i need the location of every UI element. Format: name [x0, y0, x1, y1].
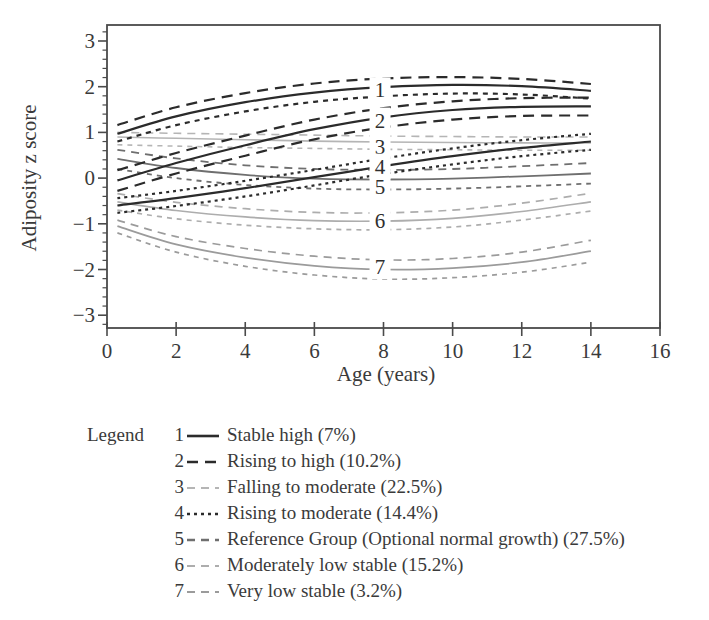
- y-tick-label: −1: [73, 212, 95, 236]
- series-4-center-line: [117, 142, 591, 206]
- legend-item-label: Rising to high (10.2%): [227, 450, 401, 472]
- legend-item-number: 2: [168, 450, 184, 472]
- legend-title: Legend: [87, 422, 144, 448]
- legend-item-5: 5Reference Group (Optional normal growth…: [168, 526, 625, 552]
- legend-item-number: 5: [168, 528, 184, 550]
- legend-item-label: Moderately low stable (15.2%): [227, 554, 463, 576]
- curve-number-label: 6: [375, 209, 386, 233]
- curve-number-label: 5: [375, 175, 386, 199]
- series-6-lower-ci: [117, 210, 591, 230]
- series-1-lower-ci: [117, 93, 591, 141]
- series-1-center-line: [117, 85, 591, 134]
- legend-item-4: 4Rising to moderate (14.4%): [168, 500, 625, 526]
- legend-swatch-line: [186, 484, 220, 492]
- legend-swatch-line: [186, 562, 220, 570]
- legend-swatch-line: [186, 432, 220, 440]
- y-axis-title: Adiposity z score: [17, 105, 41, 252]
- x-tick-label: 12: [511, 339, 532, 363]
- x-axis-title: Age (years): [337, 362, 436, 386]
- legend-item-3: 3Falling to moderate (22.5%): [168, 474, 625, 500]
- legend-swatch-line: [186, 458, 220, 466]
- legend-item-label: Falling to moderate (22.5%): [227, 476, 442, 498]
- y-tick-label: 2: [85, 75, 96, 99]
- curve-number-label: 7: [375, 255, 386, 279]
- legend-item-number: 7: [168, 580, 184, 602]
- y-tick-label: 0: [85, 166, 96, 190]
- x-tick-label: 4: [240, 339, 251, 363]
- x-tick-label: 0: [102, 339, 113, 363]
- curve-number-label: 2: [375, 109, 386, 133]
- figure: 3210−1−2−30246810121416Age (years)Adipos…: [0, 0, 709, 620]
- y-tick-label: −3: [73, 303, 95, 327]
- legend-item-number: 4: [168, 502, 184, 524]
- legend-swatch-line: [186, 510, 220, 518]
- legend-item-number: 6: [168, 554, 184, 576]
- series-7-upper-ci: [117, 220, 591, 260]
- legend-item-number: 3: [168, 476, 184, 498]
- y-tick-label: −2: [73, 258, 95, 282]
- legend-swatch-line: [186, 536, 220, 544]
- legend-item-7: 7Very low stable (3.2%): [168, 578, 625, 604]
- legend-item-label: Stable high (7%): [227, 424, 356, 446]
- legend-item-number: 1: [168, 424, 184, 446]
- legend-item-6: 6Moderately low stable (15.2%): [168, 552, 625, 578]
- x-tick-label: 2: [171, 339, 182, 363]
- legend-item-label: Reference Group (Optional normal growth)…: [227, 528, 625, 550]
- series-7-center-line: [117, 226, 591, 270]
- x-tick-label: 16: [650, 339, 671, 363]
- series-1-upper-ci: [117, 77, 591, 125]
- legend-swatch-line: [186, 588, 220, 596]
- legend-item-label: Rising to moderate (14.4%): [227, 502, 438, 524]
- legend-item-label: Very low stable (3.2%): [227, 580, 402, 602]
- legend-item-2: 2Rising to high (10.2%): [168, 448, 625, 474]
- x-tick-label: 10: [442, 339, 463, 363]
- legend-rows: 1Stable high (7%)2Rising to high (10.2%)…: [168, 422, 625, 604]
- legend-item-1: 1Stable high (7%): [168, 422, 625, 448]
- series-3-upper-ci: [117, 132, 591, 137]
- x-tick-label: 8: [378, 339, 389, 363]
- trajectory-chart: 3210−1−2−30246810121416Age (years)Adipos…: [0, 0, 709, 400]
- y-tick-label: 3: [85, 29, 96, 53]
- y-tick-label: 1: [85, 120, 96, 144]
- x-tick-label: 6: [309, 339, 320, 363]
- x-tick-label: 14: [580, 339, 602, 363]
- curve-number-label: 1: [375, 78, 386, 102]
